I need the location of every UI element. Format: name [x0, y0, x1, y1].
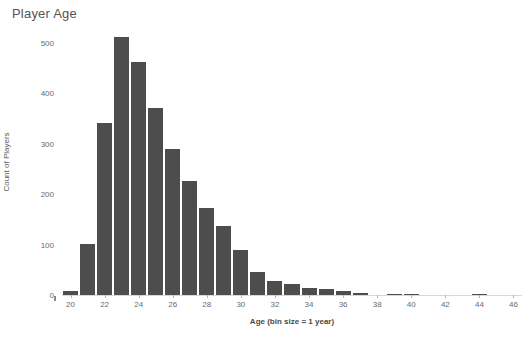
histogram-bar[interactable]	[79, 244, 96, 295]
x-tick-mark	[105, 295, 106, 298]
x-tick-mark	[173, 295, 174, 298]
x-tick-label: 36	[339, 300, 348, 309]
y-axis: Count of Players 0100200300400500	[0, 28, 62, 295]
x-tick-mark	[275, 295, 276, 298]
histogram-bar[interactable]	[198, 208, 215, 295]
origin-tick-icon	[54, 296, 56, 301]
x-tick-mark	[241, 295, 242, 298]
x-tick-mark	[71, 295, 72, 298]
x-axis-line	[62, 295, 522, 296]
histogram-bar[interactable]	[266, 281, 283, 295]
histogram-bar[interactable]	[164, 149, 181, 295]
y-tick-label: 300	[41, 139, 54, 148]
x-tick-label: 30	[236, 300, 245, 309]
bars-layer	[62, 28, 522, 295]
y-tick-label: 100	[41, 240, 54, 249]
x-tick-label: 20	[66, 300, 75, 309]
x-tick-label: 26	[168, 300, 177, 309]
x-tick-mark	[377, 295, 378, 298]
histogram-bar[interactable]	[215, 226, 232, 295]
x-axis: Age (bin size = 1 year) 2022242628303234…	[62, 295, 522, 337]
histogram-bar[interactable]	[232, 250, 249, 295]
y-tick-label: 500	[41, 39, 54, 48]
histogram-bar[interactable]	[130, 62, 147, 295]
x-tick-mark	[445, 295, 446, 298]
y-axis-title: Count of Players	[2, 132, 11, 191]
chart-page: Player Age Count of Players 010020030040…	[0, 0, 532, 337]
x-tick-label: 28	[202, 300, 211, 309]
histogram-bar[interactable]	[96, 123, 113, 295]
x-tick-label: 34	[305, 300, 314, 309]
y-tick-label: 200	[41, 190, 54, 199]
x-axis-title: Age (bin size = 1 year)	[62, 317, 522, 326]
x-tick-mark	[343, 295, 344, 298]
x-tick-label: 40	[407, 300, 416, 309]
x-tick-label: 38	[373, 300, 382, 309]
x-tick-label: 46	[509, 300, 518, 309]
histogram-bar[interactable]	[283, 284, 300, 295]
x-tick-mark	[207, 295, 208, 298]
histogram-bar[interactable]	[113, 37, 130, 295]
histogram-bar[interactable]	[249, 272, 266, 295]
x-tick-label: 24	[134, 300, 143, 309]
plot-area	[62, 28, 522, 295]
x-tick-label: 44	[475, 300, 484, 309]
histogram-bar[interactable]	[181, 181, 198, 295]
page-title: Player Age	[12, 6, 77, 21]
x-tick-mark	[139, 295, 140, 298]
x-tick-mark	[479, 295, 480, 298]
x-tick-mark	[309, 295, 310, 298]
histogram-bar[interactable]	[301, 288, 318, 295]
x-tick-mark	[411, 295, 412, 298]
histogram-bar[interactable]	[147, 108, 164, 295]
x-tick-label: 42	[441, 300, 450, 309]
x-tick-label: 32	[271, 300, 280, 309]
y-tick-label: 400	[41, 89, 54, 98]
x-tick-mark	[513, 295, 514, 298]
x-tick-label: 22	[100, 300, 109, 309]
